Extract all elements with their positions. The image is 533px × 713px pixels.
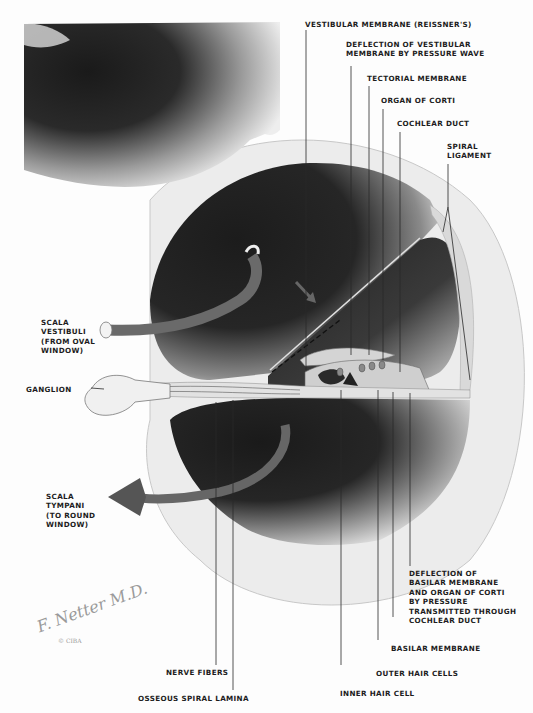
label-tectorial-membrane: TECTORIAL MEMBRANE bbox=[367, 74, 467, 83]
label-nerve-fibers: NERVE FIBERS bbox=[166, 668, 228, 677]
label-deflection-basilar: DEFLECTION OF BASILAR MEMBRANE AND ORGAN… bbox=[409, 569, 516, 625]
label-cochlear-duct: COCHLEAR DUCT bbox=[397, 119, 469, 128]
label-scala-vestibuli: SCALA VESTIBULI (FROM OVAL WINDOW) bbox=[41, 318, 95, 356]
label-ganglion: GANGLION bbox=[26, 385, 72, 394]
label-scala-tympani: SCALA TYMPANI (TO ROUND WINDOW) bbox=[46, 492, 95, 530]
label-basilar-membrane: BASILAR MEMBRANE bbox=[391, 644, 480, 653]
tympani-arrowhead bbox=[108, 478, 146, 516]
label-deflection-vestibular: DEFLECTION OF VESTIBULAR MEMBRANE BY PRE… bbox=[346, 40, 484, 59]
label-spiral-ligament: SPIRAL LIGAMENT bbox=[447, 142, 492, 161]
label-vestibular-membrane: VESTIBULAR MEMBRANE (REISSNER'S) bbox=[305, 20, 472, 29]
label-inner-hair-cell: INNER HAIR CELL bbox=[340, 689, 415, 698]
label-organ-of-corti: ORGAN OF CORTI bbox=[381, 96, 455, 105]
label-outer-hair-cells: OUTER HAIR CELLS bbox=[376, 669, 458, 678]
label-osseous-spiral-lamina: OSSEOUS SPIRAL LAMINA bbox=[138, 694, 249, 703]
ciba-credit: © CIBA bbox=[58, 637, 82, 644]
cochlea-diagram: VESTIBULAR MEMBRANE (REISSNER'S) DEFLECT… bbox=[0, 0, 533, 713]
